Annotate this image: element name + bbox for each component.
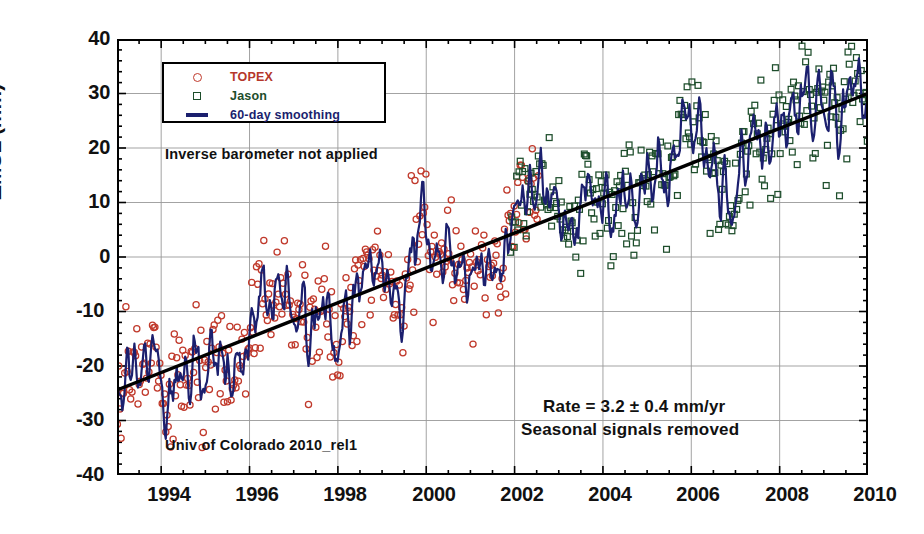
y-tick-label: -40 <box>46 464 104 484</box>
annotation-rate: Rate = 3.2 ± 0.4 mm/yr <box>543 397 725 417</box>
plot-area: TOPEX Jason 60-day smoothing Inverse bar… <box>117 39 868 475</box>
y-tick-label: 10 <box>52 191 110 211</box>
y-axis-title: ΔMSL (mm) <box>0 0 6 200</box>
legend-label: 60-day smoothing <box>230 108 340 122</box>
legend-item-topex: TOPEX <box>164 68 384 86</box>
x-tick-label: 1994 <box>124 484 214 504</box>
y-tick-label: -30 <box>46 409 104 429</box>
annotation-seasonal: Seasonal signals removed <box>521 420 739 440</box>
x-tick-label: 2000 <box>389 484 479 504</box>
annotation-source: Univ of Colorado 2010_rel1 <box>165 437 357 453</box>
x-tick-label: 2010 <box>830 484 920 504</box>
x-tick-label: 2002 <box>477 484 567 504</box>
y-tick-label: 40 <box>52 28 110 48</box>
x-tick-label: 2006 <box>653 484 743 504</box>
y-tick-label: 0 <box>52 246 110 266</box>
line-swatch-icon <box>164 113 230 116</box>
x-tick-label: 2004 <box>565 484 655 504</box>
legend-label: Jason <box>230 89 267 103</box>
open-square-icon <box>164 92 230 101</box>
y-tick-label: 20 <box>52 137 110 157</box>
chart-figure: ΔMSL (mm) 40 30 20 10 0 -10 -20 -30 -40 … <box>0 0 924 534</box>
y-tick-label: -20 <box>46 355 104 375</box>
open-circle-icon <box>164 73 230 82</box>
annotation-inverse-barometer: Inverse barometer not applied <box>165 146 378 162</box>
legend-label: TOPEX <box>230 70 273 84</box>
chart-legend: TOPEX Jason 60-day smoothing <box>162 62 386 123</box>
x-tick-label: 2008 <box>742 484 832 504</box>
x-tick-label: 1996 <box>212 484 302 504</box>
y-tick-label: -10 <box>46 300 104 320</box>
legend-item-smoothing: 60-day smoothing <box>164 106 384 124</box>
y-tick-label: 30 <box>52 82 110 102</box>
x-tick-label: 1998 <box>300 484 390 504</box>
legend-item-jason: Jason <box>164 87 384 105</box>
